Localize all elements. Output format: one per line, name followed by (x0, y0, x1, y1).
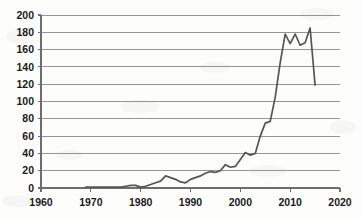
x-tick-label: 2010 (278, 196, 302, 208)
y-tick-label: 120 (16, 78, 34, 90)
x-tick-label: 1990 (179, 196, 203, 208)
x-axis-tick-labels: 1960197019801990200020102020 (29, 196, 352, 208)
x-tick-label: 2000 (229, 196, 253, 208)
data-series-line (86, 28, 315, 187)
axis-tickmarks (38, 15, 340, 192)
y-tick-label: 60 (22, 130, 34, 142)
y-tick-label: 40 (22, 147, 34, 159)
x-tick-label: 1980 (129, 196, 153, 208)
y-axis-tick-labels: 020406080100120140160180200 (16, 9, 34, 194)
y-tick-label: 140 (16, 61, 34, 73)
y-tick-label: 160 (16, 43, 34, 55)
data-series-group (86, 28, 315, 187)
y-tick-label: 200 (16, 9, 34, 21)
line-chart: 020406080100120140160180200 196019701980… (0, 0, 362, 220)
y-tick-label: 0 (28, 182, 34, 194)
y-tick-label: 20 (22, 164, 34, 176)
y-tick-label: 80 (22, 112, 34, 124)
x-tick-label: 1970 (79, 196, 103, 208)
x-tick-label: 2020 (328, 196, 352, 208)
y-tick-label: 100 (16, 95, 34, 107)
chart-container: 020406080100120140160180200 196019701980… (0, 0, 362, 220)
gridlines (41, 15, 340, 188)
x-tick-label: 1960 (29, 196, 53, 208)
y-tick-label: 180 (16, 26, 34, 38)
